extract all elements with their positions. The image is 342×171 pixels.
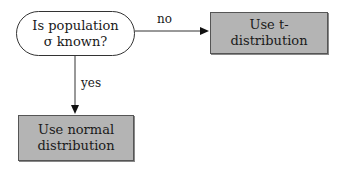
decision-line2: σ known? — [32, 34, 118, 50]
edge-no-label: no — [157, 12, 172, 26]
normal-line1: Use normal — [37, 122, 114, 138]
t-distribution-label: Use t-distribution — [211, 17, 327, 49]
decision-node: Is population σ known? — [16, 11, 135, 56]
normal-line2: distribution — [37, 138, 114, 154]
arrow-right-icon — [200, 27, 209, 35]
t-distribution-node: Use t-distribution — [210, 12, 328, 54]
edge-yes-label: yes — [81, 76, 101, 90]
decision-line1: Is population — [32, 18, 118, 34]
normal-distribution-node: Use normal distribution — [18, 115, 134, 161]
arrow-down-icon — [71, 105, 79, 114]
